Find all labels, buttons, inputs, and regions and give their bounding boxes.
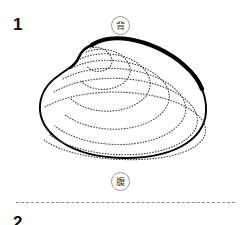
circled-character-ventral-icon: 腹 xyxy=(111,172,130,191)
clam-shell-svg xyxy=(30,36,215,166)
dorsal-glyph: 背 xyxy=(116,21,125,30)
figure-number-2: 2 xyxy=(13,214,22,225)
section-divider xyxy=(16,202,235,204)
shell-outline-fill xyxy=(40,38,206,158)
ventral-glyph: 腹 xyxy=(116,177,125,186)
figure-number-1: 1 xyxy=(13,16,22,33)
clam-shell-illustration xyxy=(30,36,215,170)
circled-character-dorsal-icon: 背 xyxy=(111,16,130,35)
figure-page: 1 背 腹 xyxy=(0,0,247,225)
